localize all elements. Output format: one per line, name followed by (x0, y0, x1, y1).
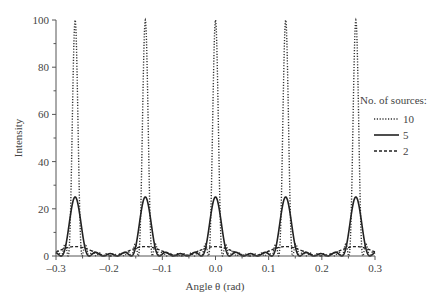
x-tick-label: 0.2 (315, 262, 329, 274)
x-tick-label: 0.3 (368, 262, 382, 274)
intensity-chart: –0.3–0.2–0.10.00.10.20.3020406080100 Ang… (0, 0, 438, 302)
legend-label-2: 2 (403, 145, 409, 157)
legend: No. of sources: 10 5 2 (360, 94, 427, 157)
x-tick-label: 0.1 (262, 262, 276, 274)
legend-title: No. of sources: (360, 94, 427, 106)
x-axis-title: Angle θ (rad) (185, 280, 244, 293)
y-tick-label: 20 (38, 203, 50, 215)
series-10-sources (56, 20, 375, 256)
legend-entry-10: 10 (374, 113, 415, 125)
x-tick-label: 0.0 (209, 262, 223, 274)
y-tick-label: 100 (33, 14, 50, 26)
x-tick-label: –0.2 (99, 262, 119, 274)
x-tick-label: –0.3 (45, 262, 66, 274)
y-tick-label: 60 (38, 108, 50, 120)
series-2-sources (56, 247, 375, 256)
y-tick-label: 40 (38, 156, 50, 168)
legend-entry-5: 5 (374, 129, 409, 141)
legend-label-10: 10 (403, 113, 415, 125)
legend-label-5: 5 (403, 129, 409, 141)
plot-area (56, 20, 375, 256)
y-axis-title: Intensity (12, 118, 24, 157)
x-tick-label: –0.1 (152, 262, 172, 274)
y-tick-label: 80 (38, 61, 50, 73)
y-tick-label: 0 (44, 250, 50, 262)
legend-entry-2: 2 (374, 145, 409, 157)
